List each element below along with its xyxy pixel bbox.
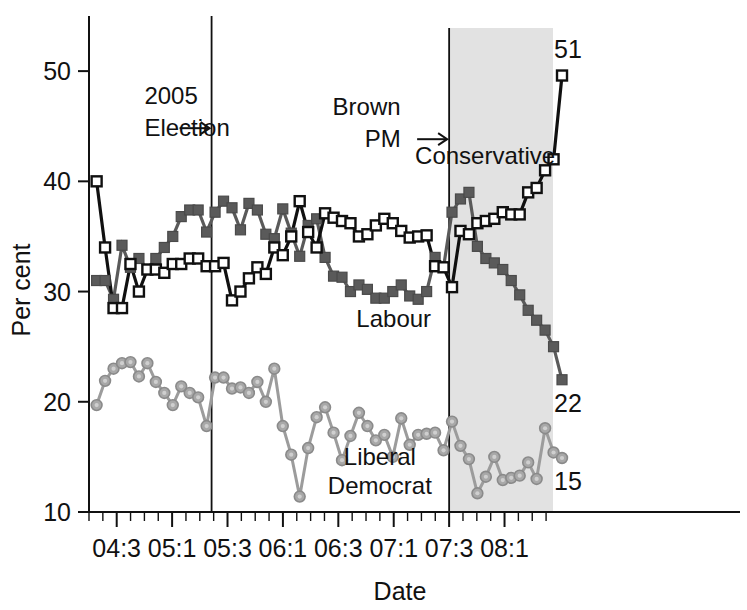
data-point-liberal-democrat-core — [331, 431, 335, 435]
data-point-liberal-democrat-core — [145, 361, 149, 365]
data-point-conservative — [532, 183, 542, 193]
y-tick-label: 20 — [43, 388, 71, 416]
x-tick-label: 08:1 — [480, 534, 529, 562]
data-point-liberal-democrat-core — [365, 424, 369, 428]
data-point-liberal-democrat-core — [425, 432, 429, 436]
data-point-conservative — [261, 269, 271, 279]
data-point-liberal-democrat-core — [323, 405, 327, 409]
data-point-labour — [151, 253, 161, 263]
data-point-labour — [117, 240, 127, 250]
y-tick-label: 10 — [43, 498, 71, 526]
data-point-liberal-democrat-core — [196, 395, 200, 399]
data-point-conservative — [345, 218, 355, 228]
data-point-conservative — [447, 282, 457, 292]
x-axis-ticks — [89, 512, 546, 527]
data-point-liberal-democrat-core — [289, 453, 293, 457]
data-point-labour — [422, 287, 432, 297]
x-axis-tick-labels: 04:305:105:306:106:307:107:308:1 — [92, 534, 529, 562]
series-label-labour: Labour — [356, 305, 431, 332]
annotations-group: 2005 Election Brown PM — [144, 82, 447, 152]
y-tick-label: 50 — [43, 57, 71, 85]
data-point-liberal-democrat-core — [238, 385, 242, 389]
data-point-labour — [447, 207, 457, 217]
data-point-labour — [337, 272, 347, 282]
data-point-liberal-democrat-core — [128, 360, 132, 364]
data-point-labour — [159, 242, 169, 252]
data-point-conservative — [92, 176, 102, 186]
endpoint-label-labour: 22 — [554, 389, 582, 417]
data-point-labour — [472, 241, 482, 251]
data-point-conservative — [557, 71, 567, 81]
x-tick-label: 07:1 — [369, 534, 418, 562]
data-point-labour — [278, 204, 288, 214]
series-label-democrat: Democrat — [328, 472, 432, 499]
x-tick-label: 05:1 — [148, 534, 197, 562]
data-point-conservative — [515, 209, 525, 219]
data-point-conservative — [134, 287, 144, 297]
data-point-conservative — [439, 262, 449, 272]
x-tick-label: 04:3 — [92, 534, 141, 562]
data-point-liberal-democrat-core — [518, 474, 522, 478]
data-point-labour — [515, 290, 525, 300]
x-axis-title: Date — [374, 577, 427, 605]
data-point-conservative — [422, 230, 432, 240]
data-point-labour — [227, 203, 237, 213]
data-point-liberal-democrat-core — [315, 415, 319, 419]
annotation-brown-line1: Brown — [333, 93, 401, 120]
data-point-liberal-democrat-core — [348, 434, 352, 438]
data-point-liberal-democrat-core — [509, 476, 513, 480]
data-point-liberal-democrat-core — [298, 494, 302, 498]
data-point-liberal-democrat-core — [441, 448, 445, 452]
data-point-liberal-democrat-core — [205, 424, 209, 428]
data-point-liberal-democrat-core — [137, 374, 141, 378]
data-point-liberal-democrat-core — [255, 380, 259, 384]
data-point-labour — [498, 265, 508, 275]
data-point-labour — [557, 375, 567, 385]
data-point-liberal-democrat-core — [475, 491, 479, 495]
data-point-labour — [464, 187, 474, 197]
data-point-liberal-democrat-core — [230, 386, 234, 390]
data-point-liberal-democrat-core — [526, 460, 530, 464]
series-label-liberal: Liberal — [344, 443, 416, 470]
data-point-liberal-democrat-core — [120, 361, 124, 365]
data-point-conservative — [278, 250, 288, 260]
data-point-labour — [100, 276, 110, 286]
annotation-2005-line1: 2005 — [144, 82, 197, 109]
data-point-liberal-democrat-core — [171, 403, 175, 407]
data-point-labour — [549, 342, 559, 352]
data-point-labour — [532, 315, 542, 325]
data-point-labour — [252, 205, 262, 215]
data-point-liberal-democrat-core — [458, 444, 462, 448]
data-point-labour — [210, 207, 220, 217]
data-point-conservative — [312, 242, 322, 252]
data-point-conservative — [117, 303, 127, 313]
data-point-liberal-democrat-core — [484, 475, 488, 479]
y-axis-title: Per cent — [7, 243, 35, 336]
data-point-liberal-democrat-core — [560, 456, 564, 460]
series-label-conservative: Conservative — [415, 142, 555, 169]
data-point-liberal-democrat-core — [433, 431, 437, 435]
x-tick-label: 07:3 — [425, 534, 474, 562]
data-point-labour — [506, 276, 516, 286]
data-point-liberal-democrat-core — [111, 367, 115, 371]
data-point-labour — [168, 231, 178, 241]
endpoint-label-liberal-democrat: 15 — [554, 467, 582, 495]
data-point-liberal-democrat-core — [213, 375, 217, 379]
data-point-liberal-democrat-core — [162, 391, 166, 395]
data-point-labour — [320, 252, 330, 262]
poll-trend-chart: 1020304050 04:305:105:306:106:307:107:30… — [0, 0, 747, 610]
data-point-liberal-democrat-core — [551, 450, 555, 454]
data-point-labour — [235, 225, 245, 235]
data-point-liberal-democrat-core — [399, 416, 403, 420]
data-point-conservative — [125, 259, 135, 269]
data-point-liberal-democrat-core — [535, 477, 539, 481]
data-point-labour — [523, 305, 533, 315]
y-tick-label: 30 — [43, 278, 71, 306]
y-tick-label: 40 — [43, 167, 71, 195]
data-point-conservative — [295, 196, 305, 206]
endpoint-label-conservative: 51 — [554, 35, 582, 63]
data-point-conservative — [100, 242, 110, 252]
data-point-liberal-democrat-core — [501, 478, 505, 482]
data-point-liberal-democrat-core — [103, 379, 107, 383]
data-point-liberal-democrat-core — [154, 380, 158, 384]
